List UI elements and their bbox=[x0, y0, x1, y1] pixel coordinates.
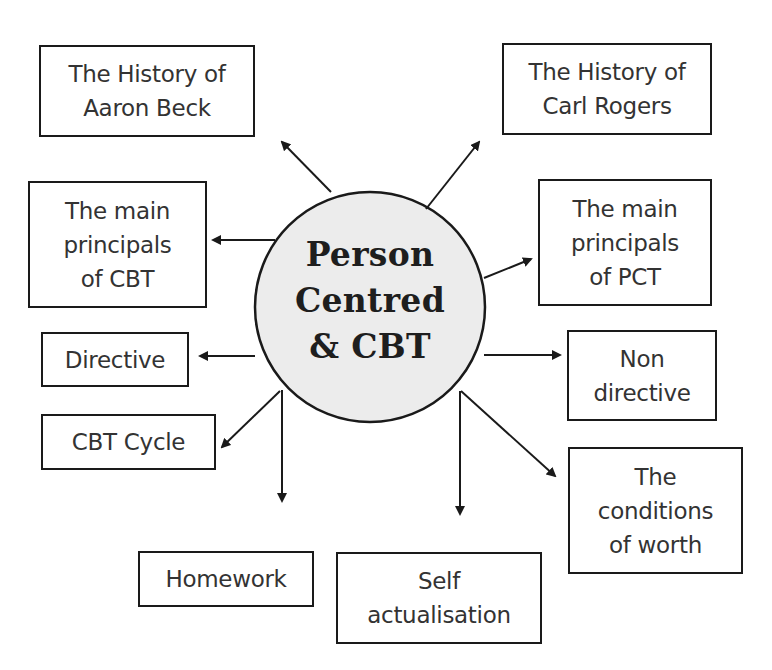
mind-map-canvas: Person Centred & CBT The History of Aaro… bbox=[0, 0, 772, 670]
node-conditions-of-worth: The conditions of worth bbox=[568, 447, 743, 574]
arrow-to-principals-pct bbox=[484, 259, 531, 278]
node-principals-cbt: The main principals of CBT bbox=[28, 181, 207, 308]
node-non-directive: Non directive bbox=[567, 330, 717, 421]
arrow-to-cbt-cycle bbox=[222, 391, 280, 447]
node-cbt-cycle: CBT Cycle bbox=[41, 414, 216, 470]
node-homework: Homework bbox=[138, 551, 314, 607]
node-history-carl-rogers: The History of Carl Rogers bbox=[502, 43, 712, 135]
arrow-to-conditions-of-worth bbox=[461, 391, 555, 476]
arrow-to-history-aaron-beck bbox=[282, 142, 331, 192]
node-history-aaron-beck: The History of Aaron Beck bbox=[39, 45, 255, 137]
arrow-to-history-carl-rogers bbox=[426, 142, 479, 209]
hub-label: Person Centred & CBT bbox=[262, 232, 478, 370]
node-principals-pct: The main principals of PCT bbox=[538, 179, 712, 306]
node-self-actualisation: Self actualisation bbox=[336, 552, 542, 644]
node-directive: Directive bbox=[41, 332, 189, 387]
